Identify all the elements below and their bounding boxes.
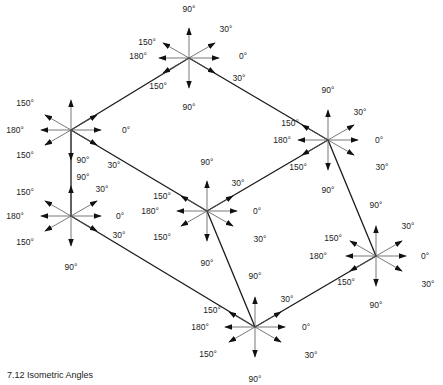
angle-label: 150° [337, 277, 355, 287]
arrow [229, 327, 255, 342]
angle-label: 150° [324, 233, 342, 243]
arrow [376, 256, 402, 271]
angle-label: 90° [322, 185, 335, 195]
arrow [328, 125, 354, 140]
angle-label: 180° [141, 206, 159, 216]
angle-label: 90° [370, 300, 383, 310]
angle-label: 30° [108, 160, 121, 170]
angle-label: 180° [191, 322, 209, 332]
arrow [71, 130, 97, 145]
arrow [71, 201, 97, 216]
angle-label: 90° [183, 102, 196, 112]
arrow [207, 211, 233, 226]
angle-label: 90° [77, 172, 90, 182]
angle-label: 150° [199, 349, 217, 359]
angle-label: 0° [302, 322, 310, 332]
angle-label: 0° [375, 135, 383, 145]
arrow [181, 196, 207, 211]
arrow [328, 140, 354, 155]
angle-label: 30° [354, 107, 367, 117]
angle-label: 150° [281, 118, 299, 128]
angle-label: 150° [16, 237, 34, 247]
angle-label: 150° [289, 162, 307, 172]
angle-label: 90° [77, 155, 90, 165]
angle-label: 30° [113, 230, 126, 240]
angle-label: 90° [322, 85, 335, 95]
star-top [159, 28, 219, 88]
angle-label: 30° [422, 279, 435, 289]
star-upper-left [41, 100, 101, 160]
figure-caption: 7.12 Isometric Angles [7, 370, 93, 380]
angle-label: 30° [254, 234, 267, 244]
arrow [189, 43, 215, 58]
arrow [45, 201, 71, 216]
angle-label: 0° [421, 251, 429, 261]
arrow [350, 241, 376, 256]
angle-label: 30° [220, 24, 233, 34]
angle-label: 150° [16, 187, 34, 197]
isometric-angles-diagram: 90°30°0°30°90°150°180°150°150°180°0°150°… [0, 0, 443, 385]
angle-label: 90° [201, 258, 214, 268]
arrow [181, 211, 207, 226]
angle-label: 150° [138, 37, 156, 47]
arrow [376, 241, 402, 256]
connector-upper-left-top [71, 58, 189, 130]
angle-label: 0° [253, 206, 261, 216]
arrow [45, 216, 71, 231]
angle-label: 90° [65, 262, 78, 272]
star-far-right [346, 226, 406, 286]
star-bottom [225, 297, 285, 357]
arrow [207, 196, 233, 211]
arrow [71, 115, 97, 130]
arrow [255, 327, 281, 342]
arrow [302, 140, 328, 155]
angle-label: 150° [153, 232, 171, 242]
arrow [189, 58, 215, 73]
angle-label: 90° [249, 374, 262, 384]
arrow [163, 43, 189, 58]
angle-label: 150° [16, 150, 34, 160]
arrow [229, 312, 255, 327]
arrow [302, 125, 328, 140]
angle-label: 180° [273, 135, 291, 145]
star-right [298, 110, 358, 170]
angle-label: 30° [96, 184, 109, 194]
angle-label: 30° [281, 294, 294, 304]
angle-label: 30° [305, 350, 318, 360]
angle-label: 180° [6, 211, 24, 221]
angle-label: 30° [376, 162, 389, 172]
star-center [177, 181, 237, 241]
angle-label: 0° [122, 125, 130, 135]
angle-label: 30° [232, 178, 245, 188]
angle-label: 90° [249, 271, 262, 281]
angle-label: 180° [6, 125, 24, 135]
arrow [163, 58, 189, 73]
arrow [255, 312, 281, 327]
angle-label: 90° [201, 157, 214, 167]
angle-label: 180° [129, 51, 147, 61]
angle-label: 150° [203, 305, 221, 315]
angle-label: 90° [370, 200, 383, 210]
star-lower-left [41, 186, 101, 246]
arrow [71, 216, 97, 231]
arrow [45, 115, 71, 130]
angle-label: 150° [149, 81, 167, 91]
angle-label: 90° [183, 4, 196, 14]
arrow [350, 256, 376, 271]
angle-label: 30° [233, 73, 246, 83]
angle-label: 150° [16, 98, 34, 108]
arrow [45, 130, 71, 145]
angle-label: 150° [153, 191, 171, 201]
angle-label: 180° [309, 251, 327, 261]
angle-label: 0° [116, 211, 124, 221]
angle-label: 0° [239, 51, 247, 61]
angle-label: 30° [402, 221, 415, 231]
